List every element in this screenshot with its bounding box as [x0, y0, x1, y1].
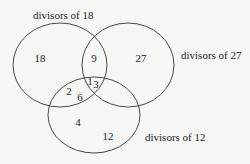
label-divisors-of-18: divisors of 18	[33, 9, 94, 21]
circle-divisors-of-18	[13, 23, 107, 107]
region-18-and-27: 9	[91, 52, 97, 64]
region-18-and-12-2: 2	[66, 85, 72, 97]
region-27-only: 27	[136, 52, 147, 64]
circle-divisors-of-27	[82, 23, 174, 107]
region-all-three-3: 3	[93, 78, 99, 90]
venn-diagram	[0, 0, 250, 164]
label-divisors-of-12: divisors of 12	[145, 131, 206, 143]
region-12-only-4: 4	[75, 116, 81, 128]
region-18-and-12-6: 6	[77, 91, 83, 103]
region-18-only: 18	[35, 52, 46, 64]
region-12-only-12: 12	[103, 130, 114, 142]
region-all-three-1: 1	[87, 75, 93, 87]
label-divisors-of-27: divisors of 27	[181, 49, 242, 61]
